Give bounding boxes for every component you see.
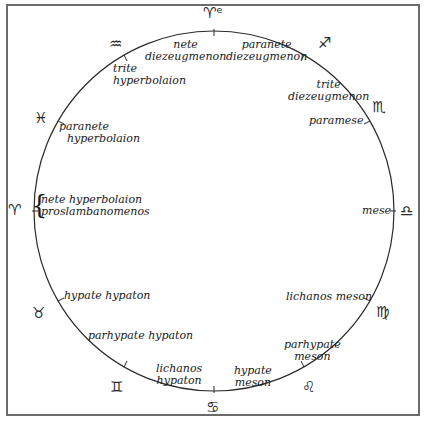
label-mese: mese [362, 205, 391, 217]
label-line: lichanos meson [286, 291, 372, 303]
label-lichanos-meson: lichanos meson [286, 291, 372, 303]
label-paranete-hyperbolaion: paranete hyperbolaion [59, 121, 140, 145]
label-line: paramese [309, 115, 364, 127]
label-nete-hyperbolaion-proslambanomenos: { nete hyperbolaion proslambanomenos [31, 194, 150, 218]
label-line: diezeugmenon [226, 51, 307, 63]
label-line: diezeugmenon [288, 91, 369, 103]
label-paramese: paramese [309, 115, 364, 127]
taurus-icon: ♉ [32, 306, 45, 321]
label-parhypate-hypaton: parhypate hypaton [88, 330, 193, 342]
aquarius-icon: ♒ [109, 37, 122, 52]
pisces-icon: ♓ [34, 111, 47, 126]
label-line: hyperbolaion [59, 133, 140, 145]
brace-icon: { [31, 192, 48, 218]
sagittarius-icon: ♐ [318, 36, 331, 51]
label-trite-diezeugmenon: trite diezeugmenon [288, 79, 369, 103]
label-line: meson [284, 351, 341, 363]
label-nete-diezeugmenon: nete diezeugmenon [145, 39, 226, 63]
label-paranete-diezeugmenon: paranete diezeugmenon [226, 39, 307, 63]
label-line: parhypate hypaton [88, 330, 193, 342]
label-hypate-hypaton: hypate hypaton [64, 290, 150, 302]
label-line: hyperbolaion [113, 75, 186, 87]
aries-icon-left: ♈ [8, 203, 21, 218]
label-line: diezeugmenon [145, 51, 226, 63]
label-line: meson [234, 377, 272, 389]
libra-icon: ♎ [400, 204, 413, 219]
label-line: hypaton [156, 375, 202, 387]
leo-icon: ♌ [302, 380, 315, 395]
label-line: proslambanomenos [31, 206, 150, 218]
scorpio-icon: ♏ [372, 100, 385, 115]
aries-icon-top: ♈ᵉ [203, 6, 223, 21]
gemini-icon: ♊ [110, 380, 123, 395]
cancer-icon: ♋ [206, 400, 219, 415]
label-hypate-meson: hypate meson [234, 365, 272, 389]
label-line: mese [362, 205, 391, 217]
virgo-icon: ♍ [376, 305, 389, 320]
label-line: hypate hypaton [64, 290, 150, 302]
label-parhypate-meson: parhypate meson [284, 339, 341, 363]
label-lichanos-hypaton: lichanos hypaton [156, 363, 202, 387]
label-trite-hyperbolaion: trite hyperbolaion [113, 63, 186, 87]
